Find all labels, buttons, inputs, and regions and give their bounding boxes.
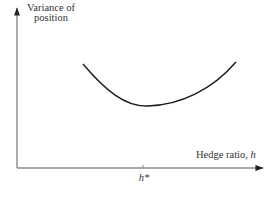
x-axis-label: Hedge ratio, h — [196, 149, 256, 160]
x-tick-label-hstar: h* — [134, 172, 154, 183]
x-axis-label-var: h — [251, 149, 256, 160]
y-axis-label-line2: position — [22, 13, 80, 23]
chart-canvas — [0, 0, 274, 197]
x-axis-label-text: Hedge ratio, — [196, 149, 251, 160]
y-axis-label: Variance of position — [22, 3, 80, 23]
variance-curve — [83, 62, 236, 106]
